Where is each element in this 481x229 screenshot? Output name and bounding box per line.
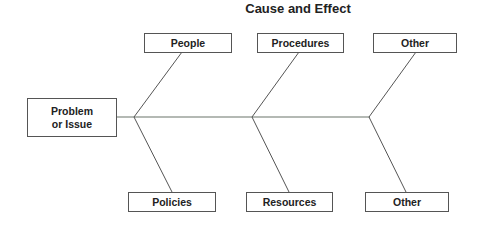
cause-box-policies: Policies [128, 192, 216, 212]
cause-box-procedures: Procedures [257, 33, 344, 53]
cause-box-resources: Resources [246, 192, 333, 212]
diagram-title: Cause and Effect [0, 0, 481, 18]
bone-people [134, 52, 182, 117]
bone-other-bottom [369, 117, 406, 192]
effect-label-line2: or Issue [52, 118, 92, 131]
effect-box: Problem or Issue [27, 98, 117, 137]
bone-procedures [252, 52, 299, 117]
cause-box-other-top: Other [373, 33, 457, 53]
bone-resources [252, 117, 289, 192]
cause-box-other-bottom: Other [365, 192, 449, 212]
cause-box-people: People [144, 33, 232, 53]
bone-other-top [369, 52, 416, 117]
effect-label-line1: Problem [51, 105, 93, 118]
bone-policies [134, 117, 172, 192]
